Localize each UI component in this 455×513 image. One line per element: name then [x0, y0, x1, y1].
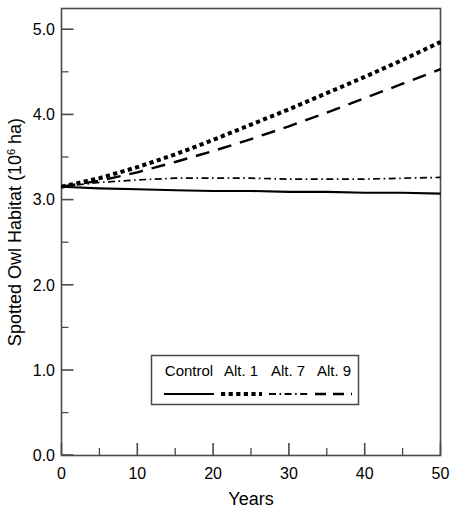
series-line-alt7 [62, 177, 441, 186]
y-tick-labels: 5.0 4.0 3.0 2.0 1.0 0.0 [33, 21, 55, 464]
y-minor-ticks [62, 72, 69, 413]
y-tick-label: 4.0 [33, 106, 55, 123]
x-tick-label: 10 [128, 465, 146, 482]
chart-svg: 5.0 4.0 3.0 2.0 1.0 0.0 0 10 [0, 0, 455, 513]
chart-figure: 5.0 4.0 3.0 2.0 1.0 0.0 0 10 [0, 0, 455, 513]
x-tick-label: 30 [280, 465, 298, 482]
legend-label-alt7: Alt. 7 [271, 362, 305, 379]
x-tick-label: 40 [356, 465, 374, 482]
y-tick-label: 5.0 [33, 21, 55, 38]
svg-text:Spotted Owl Habitat (106 ha): Spotted Owl Habitat (106 ha) [5, 118, 25, 346]
y-tick-label: 1.0 [33, 362, 55, 379]
x-axis-title: Years [228, 489, 273, 509]
legend-label-alt9: Alt. 9 [317, 362, 351, 379]
series-line-control [62, 187, 441, 194]
x-tick-label: 20 [204, 465, 222, 482]
x-tick-label: 50 [432, 465, 450, 482]
y-axis-title-prefix: Spotted Owl Habitat (10 [5, 155, 25, 346]
x-minor-ticks [99, 448, 402, 455]
series-line-alt1 [62, 42, 441, 187]
legend-label-control: Control [165, 362, 213, 379]
y-tick-label: 3.0 [33, 191, 55, 208]
y-axis-title-suffix: ha) [5, 118, 25, 149]
y-axis-title: Spotted Owl Habitat (106 ha) [5, 118, 25, 346]
chart-legend: Control Alt. 1 Alt. 7 Alt. 9 [152, 356, 359, 405]
legend-label-alt1: Alt. 1 [224, 362, 258, 379]
series-line-alt9 [62, 69, 441, 187]
x-tick-label: 0 [57, 465, 66, 482]
x-tick-labels: 0 10 20 30 40 50 [57, 465, 449, 482]
y-tick-label: 2.0 [33, 277, 55, 294]
y-tick-label: 0.0 [33, 447, 55, 464]
